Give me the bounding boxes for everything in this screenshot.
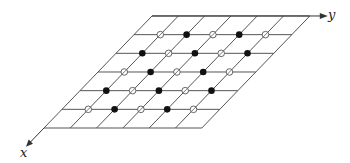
lattice-diagram [0,0,350,163]
open-point-icon [218,50,225,57]
filled-point-icon [156,87,163,94]
open-point-icon [262,31,269,38]
filled-point-icon [164,106,171,113]
open-point-icon [210,31,217,38]
filled-point-icon [183,31,190,38]
x-axis-line [29,128,44,144]
filled-point-icon [139,50,146,57]
open-point-icon [190,106,197,113]
filled-point-icon [103,87,110,94]
filled-point-icon [192,50,199,57]
open-point-icon [182,87,189,94]
filled-point-icon [200,69,207,76]
open-point-icon [129,87,136,94]
filled-point-icon [147,69,154,76]
y-axis-arrow-icon [320,13,328,19]
x-axis-label: x [20,146,27,159]
y-axis-label: y [328,8,335,21]
filled-point-icon [236,31,243,38]
open-point-icon [157,31,164,38]
open-point-icon [174,69,181,76]
filled-point-icon [111,106,118,113]
open-point-icon [165,50,172,57]
open-point-icon [138,106,145,113]
filled-point-icon [208,87,215,94]
filled-point-icon [244,50,251,57]
open-point-icon [226,69,233,76]
open-point-icon [121,69,128,76]
open-point-icon [85,106,92,113]
